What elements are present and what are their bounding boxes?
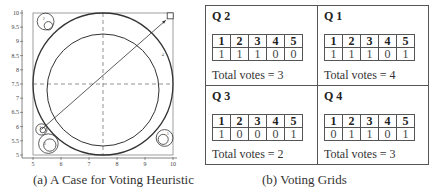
- y-tick-label: 5.5: [12, 138, 20, 144]
- small-circle-label: 3: [44, 141, 46, 146]
- total-votes: Total votes = 3: [212, 68, 284, 83]
- total-votes: Total votes = 3: [324, 147, 396, 162]
- header-cell: 1: [213, 115, 231, 128]
- value-cell: 1: [213, 48, 231, 61]
- header-row: 1 2 3 4 5: [213, 115, 303, 128]
- value-cell: 0: [325, 128, 343, 141]
- header-cell: 2: [231, 115, 249, 128]
- vote-table: 1 2 3 4 5 1 1 1 0 1: [324, 34, 415, 61]
- value-cell: 1: [249, 48, 267, 61]
- panel-title: Q 3: [212, 89, 230, 104]
- value-cell: 1: [325, 48, 343, 61]
- vote-table: 1 2 3 4 5 1 0 0 0 1: [212, 114, 303, 141]
- header-cell: 2: [343, 115, 361, 128]
- value-cell: 0: [231, 128, 249, 141]
- grid-panel: Q 1 1 2 3 4 5 1 1 1 0 1 Total votes = 4: [318, 6, 428, 86]
- value-cell: 1: [397, 128, 415, 141]
- voting-heuristic-plot: 55.566.577.588.599.510567891021354: [0, 0, 200, 172]
- header-cell: 3: [361, 115, 379, 128]
- value-row: 1 1 1 0 1: [325, 48, 415, 61]
- value-cell: 1: [397, 48, 415, 61]
- value-cell: 1: [343, 48, 361, 61]
- value-cell: 0: [379, 48, 397, 61]
- caption-b: (b) Voting Grids: [262, 172, 347, 188]
- value-cell: 0: [379, 128, 397, 141]
- x-tick-label: 8: [116, 161, 119, 167]
- value-cell: 1: [361, 48, 379, 61]
- small-circle-outer: [37, 13, 54, 30]
- y-tick-label: 6.5: [12, 109, 20, 115]
- small-circle-outer: [39, 134, 59, 154]
- value-row: 1 0 0 0 1: [213, 128, 303, 141]
- value-cell: 0: [285, 48, 303, 61]
- grid-panel: Q 2 1 2 3 4 5 1 1 1 0 0 Total votes = 3: [206, 6, 318, 86]
- header-cell: 4: [267, 115, 285, 128]
- header-cell: 1: [325, 115, 343, 128]
- header-cell: 2: [231, 35, 249, 48]
- value-cell: 1: [213, 128, 231, 141]
- total-votes: Total votes = 4: [324, 68, 396, 83]
- value-row: 0 1 1 0 1: [325, 128, 415, 141]
- y-tick-label: 6: [16, 124, 19, 130]
- voting-grids: Q 2 1 2 3 4 5 1 1 1 0 0 Total votes = 3 …: [205, 5, 429, 165]
- y-tick-label: 9: [16, 38, 19, 44]
- y-tick-label: 7.5: [12, 81, 20, 87]
- header-cell: 1: [213, 35, 231, 48]
- panel-title: Q 1: [324, 9, 342, 24]
- small-circle-label: 2: [43, 16, 45, 21]
- small-circle-inner: [44, 22, 52, 30]
- x-tick-label: 7: [88, 161, 91, 167]
- x-tick-label: 5: [32, 161, 35, 167]
- small-circle-label: 5: [167, 131, 169, 136]
- vote-table: 1 2 3 4 5 0 1 1 0 1: [324, 114, 415, 141]
- x-tick-label: 9: [144, 161, 147, 167]
- header-cell: 3: [249, 35, 267, 48]
- vote-table: 1 2 3 4 5 1 1 1 0 0: [212, 34, 303, 61]
- x-tick-label: 6: [60, 161, 63, 167]
- value-cell: 0: [249, 128, 267, 141]
- y-tick-label: 8: [16, 67, 19, 73]
- y-tick-label: 7: [16, 95, 19, 101]
- y-tick-label: 10: [13, 10, 19, 16]
- x-tick-label: 10: [170, 161, 176, 167]
- y-tick-label: 8.5: [12, 53, 20, 59]
- header-cell: 5: [285, 115, 303, 128]
- header-cell: 3: [361, 35, 379, 48]
- target-square: [167, 13, 173, 19]
- caption-a: (a) A Case for Voting Heuristic: [33, 172, 194, 188]
- header-cell: 4: [267, 35, 285, 48]
- small-circle-label: 1: [39, 125, 41, 130]
- header-cell: 5: [397, 115, 415, 128]
- value-row: 1 1 1 0 0: [213, 48, 303, 61]
- header-row: 1 2 3 4 5: [213, 35, 303, 48]
- header-cell: 4: [379, 115, 397, 128]
- value-cell: 0: [267, 48, 285, 61]
- y-tick-label: 9.5: [12, 24, 20, 30]
- grid-panel: Q 3 1 2 3 4 5 1 0 0 0 1 Total votes = 2: [206, 86, 318, 164]
- grid-panel: Q 4 1 2 3 4 5 0 1 1 0 1 Total votes = 3: [318, 86, 428, 164]
- value-cell: 1: [231, 48, 249, 61]
- value-cell: 1: [343, 128, 361, 141]
- value-cell: 1: [285, 128, 303, 141]
- value-cell: 0: [267, 128, 285, 141]
- panel-title: Q 4: [324, 89, 342, 104]
- header-cell: 1: [325, 35, 343, 48]
- header-cell: 4: [379, 35, 397, 48]
- panel-title: Q 2: [212, 9, 230, 24]
- circle-label: 4: [162, 52, 164, 57]
- header-cell: 5: [397, 35, 415, 48]
- value-cell: 1: [361, 128, 379, 141]
- y-tick-label: 5: [16, 152, 19, 158]
- header-row: 1 2 3 4 5: [325, 35, 415, 48]
- header-cell: 5: [285, 35, 303, 48]
- header-row: 1 2 3 4 5: [325, 115, 415, 128]
- header-cell: 3: [249, 115, 267, 128]
- header-cell: 2: [343, 35, 361, 48]
- arrow-line: [41, 20, 165, 129]
- total-votes: Total votes = 2: [212, 147, 284, 162]
